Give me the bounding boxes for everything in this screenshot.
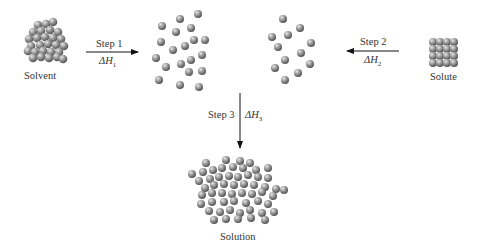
step2-label: Step 2 [360,36,387,47]
step3-enthalpy: ΔH3 [245,109,262,123]
solute-label: Solute [430,71,457,82]
separated-solute-molecules [268,15,315,84]
solvent-label: Solvent [24,70,56,81]
solute-lattice [429,38,458,67]
step2-enthalpy: ΔH2 [364,54,381,68]
separated-solvent-molecules [152,10,209,91]
step3-label: Step 3 [208,109,235,120]
solvent-cluster [24,18,69,64]
solution-label: Solution [220,231,256,242]
solution-cluster [188,156,288,224]
step1-label: Step 1 [96,38,123,49]
step1-enthalpy: ΔH1 [99,55,116,69]
dissolution-diagram [0,0,477,246]
